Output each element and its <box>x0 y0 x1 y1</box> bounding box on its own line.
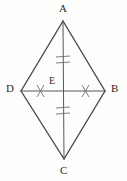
tick-AE-1 <box>56 56 70 57</box>
rhombus-diagonals <box>21 21 105 159</box>
geometry-figure: A B C D E <box>0 0 127 181</box>
side-DA <box>21 21 63 91</box>
tick-EC-2 <box>56 113 70 114</box>
diagonal-AC <box>63 21 64 159</box>
side-BC <box>64 91 105 159</box>
tick-marks-segment-EC <box>56 107 70 114</box>
tick-EC-1 <box>56 107 70 108</box>
vertex-label-A: A <box>59 3 67 14</box>
vertex-label-E: E <box>49 76 55 86</box>
vertex-label-C: C <box>60 165 67 176</box>
vertex-label-D: D <box>6 83 14 94</box>
vertex-label-B: B <box>111 83 118 94</box>
side-CD <box>21 91 64 159</box>
tick-AE-2 <box>56 62 70 63</box>
geometry-canvas <box>0 0 127 181</box>
